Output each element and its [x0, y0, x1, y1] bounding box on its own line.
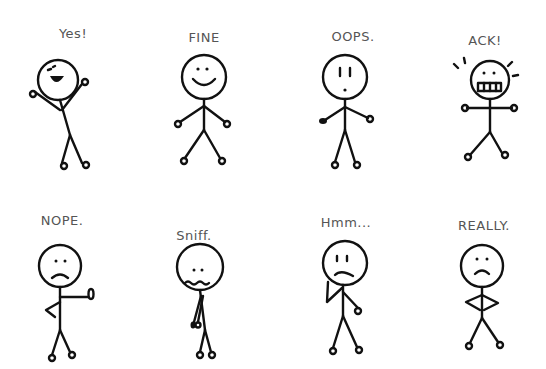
figure-hmm — [323, 241, 367, 354]
stick-figure-emotions-illustration: Yes! FINE OOPS. ACK! NOPE. Sniff. Hmm...… — [0, 0, 546, 369]
figure-nope — [39, 245, 94, 361]
figure-oops — [319, 55, 373, 168]
figure-ack — [454, 58, 518, 160]
figures-drawing — [0, 0, 546, 369]
figure-really — [461, 245, 503, 349]
figure-yes — [30, 60, 89, 169]
figure-sniff — [177, 244, 223, 358]
figure-fine — [175, 55, 230, 164]
